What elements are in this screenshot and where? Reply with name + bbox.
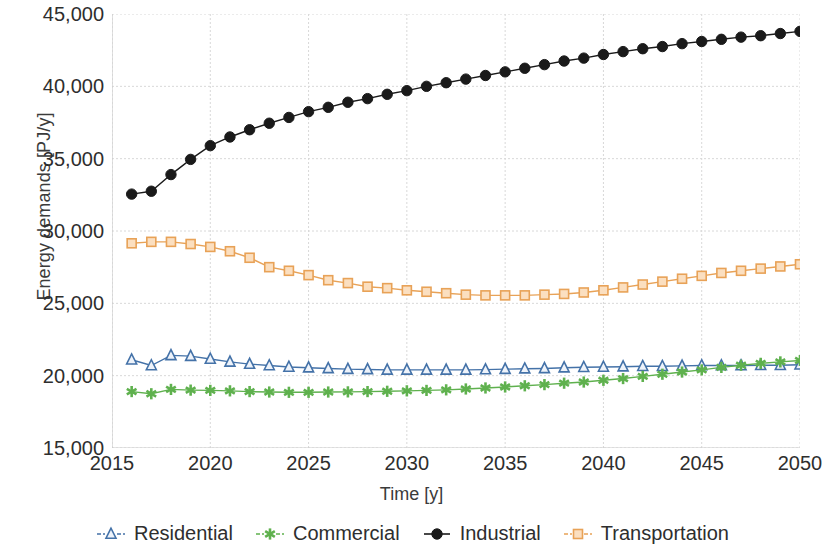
x-axis-tick-2045: 2045 <box>679 452 724 475</box>
series-industrial <box>126 26 800 199</box>
x-axis-tick-2025: 2025 <box>286 452 331 475</box>
x-axis-title: Time [y] <box>0 484 823 505</box>
legend-label: Residential <box>134 522 233 545</box>
series-transportation <box>127 237 800 300</box>
gridlines <box>112 14 800 448</box>
x-axis-tick-2050: 2050 <box>778 452 823 475</box>
y-axis-tick-40000: 40,000 <box>12 75 104 98</box>
x-axis-tick-2040: 2040 <box>581 452 626 475</box>
y-axis-tick-45000: 45,000 <box>12 3 104 26</box>
x-axis-tick-labels: 20152020202520302035204020452050 <box>0 452 823 482</box>
y-axis-tick-20000: 20,000 <box>12 364 104 387</box>
x-axis-tick-2030: 2030 <box>385 452 430 475</box>
legend-item-residential[interactable]: Residential <box>94 522 233 545</box>
plot-svg <box>112 14 800 448</box>
chart-legend: ResidentialCommercialIndustrialTransport… <box>0 522 823 545</box>
x-axis-tick-2020: 2020 <box>188 452 233 475</box>
legend-label: Industrial <box>460 522 541 545</box>
triangle-marker-icon <box>94 524 128 544</box>
square-marker-icon <box>561 524 595 544</box>
x-axis-tick-2035: 2035 <box>483 452 528 475</box>
legend-item-transportation[interactable]: Transportation <box>561 522 729 545</box>
legend-item-commercial[interactable]: Commercial <box>253 522 400 545</box>
legend-item-industrial[interactable]: Industrial <box>420 522 541 545</box>
legend-label: Transportation <box>601 522 729 545</box>
y-axis-tick-25000: 25,000 <box>12 292 104 315</box>
x-axis-tick-2015: 2015 <box>90 452 135 475</box>
plot-area <box>112 14 800 448</box>
legend-label: Commercial <box>293 522 400 545</box>
y-axis-tick-30000: 30,000 <box>12 220 104 243</box>
asterisk-marker-icon <box>253 524 287 544</box>
circle-marker-icon <box>420 524 454 544</box>
y-axis-tick-35000: 35,000 <box>12 147 104 170</box>
energy-demands-chart-figure: Energy demands [PJ/y] 15,00020,00025,000… <box>0 0 823 554</box>
